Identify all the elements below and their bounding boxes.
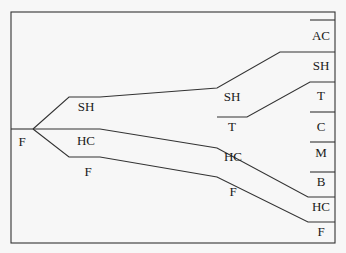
stage1-label-f: F xyxy=(84,165,91,179)
output-label-b: B xyxy=(317,175,326,189)
stage2-label-hc: HC xyxy=(224,150,242,164)
stage2-label-sh: SH xyxy=(224,90,241,104)
output-label-m: M xyxy=(315,146,327,160)
diagram-canvas: F SH HC F SH T HC F AC SH T C M B HC F xyxy=(0,0,346,253)
stage2-label-f: F xyxy=(229,185,236,199)
branch-sh xyxy=(33,52,335,129)
root-label: F xyxy=(18,135,25,149)
frame-border xyxy=(11,12,335,243)
stage1-label-sh: SH xyxy=(78,100,95,114)
output-label-t: T xyxy=(317,89,325,103)
diagram-lines xyxy=(0,0,346,253)
stage1-label-hc: HC xyxy=(77,134,95,148)
stage2-label-t: T xyxy=(228,120,236,134)
output-label-sh: SH xyxy=(313,59,330,73)
output-label-hc: HC xyxy=(312,200,330,214)
output-label-c: C xyxy=(317,120,326,134)
output-label-f: F xyxy=(317,225,324,239)
output-label-ac: AC xyxy=(312,29,330,43)
